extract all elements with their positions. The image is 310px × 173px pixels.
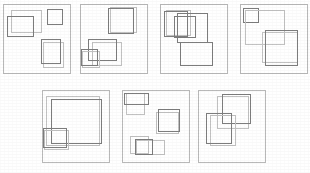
rect-dark-2: [158, 109, 180, 132]
panel-2: [80, 4, 148, 74]
rect-dark-2: [47, 9, 63, 25]
panel-5: [42, 90, 110, 163]
rect-dark-1: [108, 8, 134, 34]
panel-4: [240, 4, 308, 74]
panel-6: [122, 90, 190, 163]
figure-canvas: [0, 0, 310, 173]
panel-7: [198, 90, 266, 163]
panel-3: [160, 4, 228, 74]
rect-dark-3: [177, 13, 208, 43]
rect-dark-3: [41, 39, 61, 64]
panel-1: [3, 4, 71, 74]
rect-dark-2: [206, 113, 232, 144]
rect-dark-4: [180, 42, 213, 66]
rect-dark-3: [81, 49, 98, 66]
rect-dark-1: [7, 16, 34, 37]
rect-dark-3: [135, 139, 153, 155]
rect-dark-2: [43, 128, 67, 148]
rect-dark-2: [265, 30, 298, 66]
rect-dark-1: [124, 93, 149, 105]
